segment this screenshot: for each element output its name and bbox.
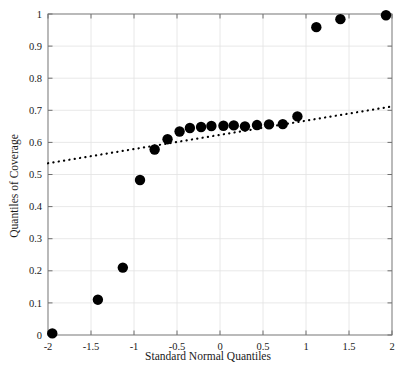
svg-text:0.9: 0.9 [29,41,42,52]
svg-text:0.2: 0.2 [29,265,42,276]
svg-text:0.1: 0.1 [29,298,42,309]
svg-text:0.3: 0.3 [29,233,42,244]
svg-text:0.6: 0.6 [29,137,42,148]
x-axis-title: Standard Normal Quantiles [0,350,416,362]
svg-text:0.7: 0.7 [29,105,42,116]
qq-plot-figure: -2-1.5-1-0.500.511.52 00.10.20.30.40.50.… [0,0,416,373]
chart-canvas: -2-1.5-1-0.500.511.52 00.10.20.30.40.50.… [0,0,416,373]
y-tick-labels: 00.10.20.30.40.50.60.70.80.91 [29,9,43,341]
svg-text:0.4: 0.4 [29,201,43,212]
svg-text:1: 1 [37,9,42,20]
svg-text:0: 0 [37,330,42,341]
y-axis-title: Quantiles of Coverage [8,134,20,237]
svg-text:0.5: 0.5 [29,169,42,180]
svg-text:0.8: 0.8 [29,73,42,84]
